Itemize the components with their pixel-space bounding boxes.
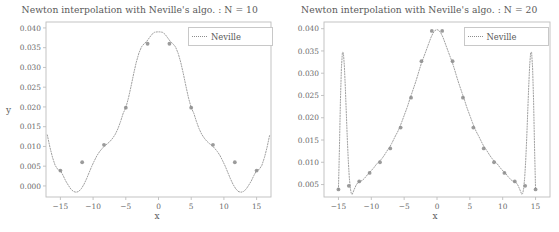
data-point-marker (346, 184, 350, 188)
y-tick-label: 0.015 (20, 122, 41, 131)
neville-interpolation-curve (338, 30, 535, 195)
x-tick-label: −15 (53, 202, 69, 211)
data-point-marker (378, 160, 382, 164)
neville-interpolation-curve (47, 32, 269, 192)
plot-frame (46, 22, 271, 197)
panel-left-legend[interactable]: Neville (188, 27, 273, 46)
x-tick-label: 15 (530, 202, 540, 211)
x-tick-label: −10 (363, 202, 379, 211)
y-tick-label: 0.025 (20, 83, 41, 92)
y-tick-label: 0.010 (20, 142, 41, 151)
x-tick-label: 0 (434, 202, 439, 211)
x-tick-label: 0 (156, 202, 161, 211)
legend-label: Neville (211, 32, 241, 42)
data-point-marker (440, 29, 444, 33)
y-tick-label: 0.005 (297, 180, 318, 189)
data-point-marker (58, 169, 62, 173)
y-tick-label: 0.025 (297, 91, 318, 100)
panel-right-xlabel: x (433, 211, 438, 221)
x-tick-label: 10 (497, 202, 507, 211)
data-point-marker (481, 147, 485, 151)
y-tick-label: 0.035 (297, 47, 318, 56)
panel-left: Newton interpolation with Neville's algo… (0, 0, 280, 232)
data-point-marker (211, 143, 215, 147)
data-point-marker (255, 169, 259, 173)
y-tick-label: 0.010 (297, 158, 318, 167)
data-point-marker (124, 106, 128, 110)
x-tick-label: −15 (330, 202, 346, 211)
x-tick-label: 5 (467, 202, 472, 211)
y-tick-label: 0.040 (297, 24, 318, 33)
data-point-marker (189, 106, 193, 110)
panel-right-legend[interactable]: Neville (464, 27, 549, 46)
data-point-marker (336, 188, 340, 192)
x-tick-label: −10 (85, 202, 101, 211)
legend-line-sample-icon (468, 36, 483, 37)
data-point-marker (102, 143, 106, 147)
data-point-marker (492, 160, 496, 164)
panel-right: Newton interpolation with Neville's algo… (280, 0, 559, 232)
data-point-marker (146, 42, 150, 46)
x-tick-label: −5 (120, 202, 131, 211)
y-tick-label: 0.030 (297, 69, 318, 78)
data-point-marker (168, 42, 172, 46)
y-tick-label: 0.015 (297, 136, 318, 145)
x-tick-label: 5 (189, 202, 194, 211)
data-point-marker (512, 180, 516, 184)
data-point-marker (80, 160, 84, 164)
data-point-marker (502, 171, 506, 175)
data-point-marker (461, 96, 465, 100)
panel-left-xlabel: x (155, 211, 160, 221)
y-tick-label: 0.000 (20, 182, 41, 191)
figure-two-panel-plot: Newton interpolation with Neville's algo… (0, 0, 559, 232)
data-point-marker (533, 188, 537, 192)
panel-left-ylabel: y (6, 105, 11, 115)
plot-frame (324, 22, 550, 197)
data-point-marker (450, 59, 454, 63)
data-point-marker (523, 184, 527, 188)
data-point-marker (429, 29, 433, 33)
x-tick-label: −5 (398, 202, 409, 211)
data-point-marker (388, 147, 392, 151)
y-tick-label: 0.040 (20, 24, 41, 33)
data-point-marker (471, 126, 475, 130)
data-point-marker (419, 59, 423, 63)
y-tick-label: 0.020 (297, 113, 318, 122)
x-tick-label: 10 (219, 202, 229, 211)
y-tick-label: 0.005 (20, 162, 41, 171)
data-point-marker (233, 160, 237, 164)
y-tick-label: 0.030 (20, 63, 41, 72)
data-point-marker (367, 171, 371, 175)
data-point-marker (357, 180, 361, 184)
data-point-marker (398, 126, 402, 130)
y-tick-label: 0.035 (20, 43, 41, 52)
y-tick-label: 0.020 (20, 103, 41, 112)
legend-line-sample-icon (192, 36, 207, 37)
legend-label: Neville (487, 32, 517, 42)
x-tick-label: 15 (252, 202, 262, 211)
data-point-marker (409, 96, 413, 100)
